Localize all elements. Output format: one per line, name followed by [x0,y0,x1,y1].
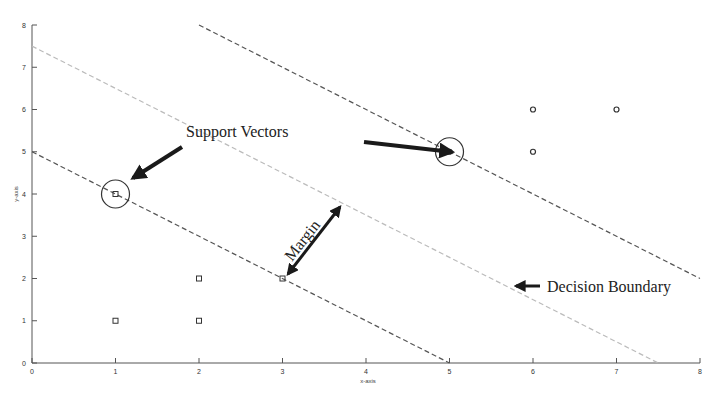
circle-point [531,149,536,154]
support-vectors-label: Support Vectors [186,123,288,141]
decision-boundary-label: Decision Boundary [547,278,671,296]
y-tick-label: 7 [22,64,26,71]
circle-point [531,107,536,112]
circle-point [614,107,619,112]
y-axis-label: y-axis [13,186,19,202]
decision-boundary-line [32,46,658,363]
svm-chart: 012345678 012345678 x-axis y-axis Suppor… [0,0,724,395]
x-tick-label: 7 [615,368,619,375]
x-tick-label: 4 [364,368,368,375]
y-tick-label: 4 [22,191,26,198]
x-tick-label: 5 [448,368,452,375]
square-point [197,318,202,323]
margin-and-boundary-lines [32,25,700,363]
square-point [113,318,118,323]
support-vector-circle [102,180,130,208]
x-tick-label: 6 [531,368,535,375]
lower-margin-line [32,152,450,363]
x-axis-label: x-axis [360,378,376,384]
x-axis-ticks: 012345678 [30,358,702,375]
y-tick-label: 2 [22,275,26,282]
square-point [197,276,202,281]
x-tick-label: 1 [114,368,118,375]
axes [32,25,700,363]
x-tick-label: 0 [30,368,34,375]
y-tick-label: 0 [22,360,26,367]
y-axis-ticks: 012345678 [22,22,37,367]
x-tick-label: 3 [281,368,285,375]
square-point [113,192,118,197]
y-tick-label: 1 [22,317,26,324]
y-tick-label: 3 [22,233,26,240]
x-tick-label: 2 [197,368,201,375]
y-tick-label: 6 [22,106,26,113]
y-tick-label: 5 [22,148,26,155]
y-tick-label: 8 [22,22,26,29]
support-vector-arrow-left [133,147,182,178]
x-tick-label: 8 [698,368,702,375]
